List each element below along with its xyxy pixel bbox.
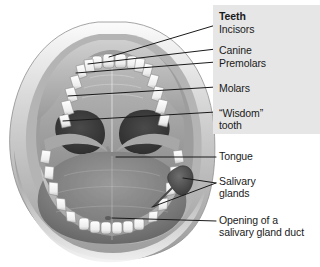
label-teeth: Teeth [219, 11, 246, 23]
tooth-molar-lower-left-2 [49, 182, 58, 196]
label-salivary-duct-opening: Opening of a salivary gland duct [219, 215, 304, 238]
label-tongue: Tongue [219, 151, 253, 163]
tooth-canine-lower-right [134, 218, 144, 230]
tooth-incisor-lower-2 [101, 222, 111, 234]
tooth-canine-lower-left [79, 218, 89, 230]
salivary-gland-duct-opening [105, 216, 111, 220]
tooth-incisor-lower-1 [90, 221, 100, 233]
tooth-incisor-lower-4 [123, 221, 133, 233]
tooth-premolar-lower-left-2 [66, 211, 76, 223]
mouth-anatomy-figure: Teeth Incisors Canine Premolars Molars “… [0, 0, 320, 267]
label-wisdom-tooth: “Wisdom” tooth [219, 108, 263, 131]
label-premolars: Premolars [219, 58, 266, 70]
tooth-premolar-lower-right-2 [148, 211, 158, 223]
tooth-premolar-lower-left-1 [56, 198, 66, 211]
label-salivary-glands: Salivary glands [219, 176, 256, 199]
tooth-molar-lower-left-1 [44, 166, 54, 180]
label-incisors: Incisors [219, 24, 254, 36]
label-molars: Molars [219, 83, 250, 95]
tooth-incisor-lower-3 [112, 222, 122, 234]
tooth-wisdom-lower-left [40, 150, 51, 164]
label-canine: Canine [219, 45, 252, 57]
